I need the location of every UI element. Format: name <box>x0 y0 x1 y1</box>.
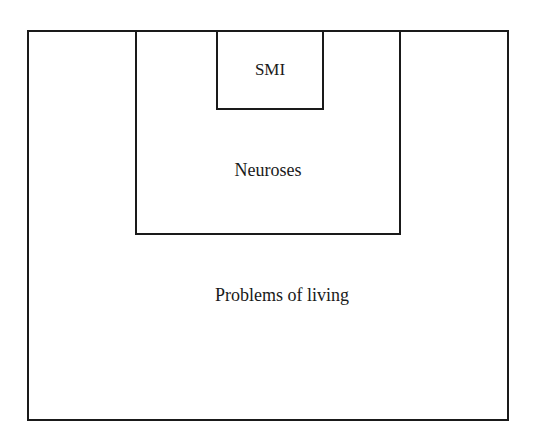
smi-label: SMI <box>255 60 285 80</box>
neuroses-label: Neuroses <box>235 160 302 181</box>
problems-of-living-label: Problems of living <box>215 285 349 306</box>
